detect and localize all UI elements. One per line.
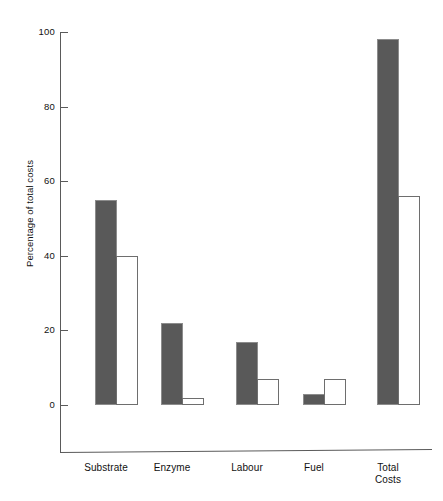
y-tick-mark-40 <box>61 256 68 257</box>
bar-filled-1 <box>161 323 183 405</box>
y-tick-label-0: 0 <box>13 399 55 410</box>
bar-open-2 <box>257 379 279 405</box>
x-axis-line <box>60 449 432 453</box>
bar-open-1 <box>182 398 204 405</box>
bar-open-3 <box>324 379 346 405</box>
y-tick-label-80: 80 <box>13 101 55 112</box>
y-tick-label-100: 100 <box>13 26 55 37</box>
bar-chart-plot: Percentage of total costs 100806040200 S… <box>0 0 443 501</box>
chart-page: Percentage of total costs 100806040200 S… <box>0 0 443 501</box>
y-tick-mark-80 <box>61 107 68 108</box>
y-tick-label-40: 40 <box>13 250 55 261</box>
y-axis-line <box>60 32 61 453</box>
bar-open-4 <box>398 196 420 405</box>
bar-open-0 <box>116 256 138 405</box>
y-tick-mark-60 <box>61 181 68 182</box>
x-axis-label-4: Total Costs <box>342 462 434 486</box>
bar-filled-3 <box>303 394 325 405</box>
y-tick-mark-0 <box>61 405 68 406</box>
y-axis-title: Percentage of total costs <box>24 144 35 284</box>
bar-filled-0 <box>95 200 117 405</box>
y-tick-label-60: 60 <box>13 175 55 186</box>
bar-filled-4 <box>377 39 399 405</box>
bar-filled-2 <box>236 342 258 405</box>
y-tick-mark-20 <box>61 330 68 331</box>
y-tick-mark-100 <box>61 32 68 33</box>
y-tick-label-20: 20 <box>13 324 55 335</box>
